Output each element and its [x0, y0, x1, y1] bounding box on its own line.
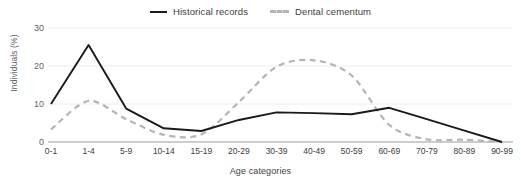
x-tick-label: 20-29	[228, 146, 250, 156]
x-tick-label: 70-79	[416, 146, 438, 156]
x-tick-label: 50-59	[341, 146, 363, 156]
x-tick-label: 10-14	[153, 146, 175, 156]
x-tick-label: 15-19	[190, 146, 212, 156]
series-line-dental-cementum	[51, 60, 502, 142]
chart-canvas	[0, 0, 521, 188]
x-axis-title: Age categories	[0, 166, 521, 176]
x-tick-label: 0-1	[45, 146, 57, 156]
x-tick-label: 1-4	[82, 146, 94, 156]
x-tick-label: 40-49	[303, 146, 325, 156]
x-tick-label: 30-39	[266, 146, 288, 156]
x-tick-label: 60-69	[378, 146, 400, 156]
x-tick-label: 80-89	[454, 146, 476, 156]
plot-area: Individuals (%) 0102030 0-11-45-910-1415…	[0, 0, 521, 188]
x-tick-label: 90-99	[491, 146, 513, 156]
series-line-historical-records	[51, 45, 502, 142]
line-chart: Historical records Dental cementum Indiv…	[0, 0, 521, 188]
x-tick-label: 5-9	[120, 146, 132, 156]
